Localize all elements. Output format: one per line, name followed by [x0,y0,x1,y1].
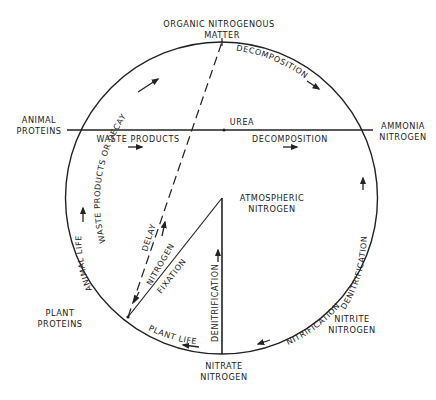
label-waste-or-decay: WASTE PRODUCTS OR DECAY [93,112,128,244]
label-atmospheric-line2: NITROGEN [248,204,295,214]
nitrogen-fixation-line [128,198,222,317]
label-waste-products: WASTE PRODUCTS [96,135,179,144]
label-plant-line1: PLANT [46,308,75,318]
arrow-decomposition-arc [307,81,319,89]
urea-dot [223,129,226,132]
plant-proteins-dot [126,315,129,318]
label-plant-life: PLANT LIFE [147,324,197,347]
label-denitrification-vertical: DENITRIFICATION [211,264,220,342]
label-animal-line2: PROTEINS [17,126,62,136]
label-nitrite-line1: NITRITE [334,314,369,324]
label-decomposition-line: DECOMPOSITION [252,135,328,144]
label-denitrification-arc: DENITRIFICATION [339,235,369,311]
label-nitrate-line2: NITROGEN [200,372,247,382]
label-animal-life: ANIMAL LIFE [74,235,94,293]
label-atmospheric-line1: ATMOSPHERIC [240,193,304,203]
arrow-delay [162,222,165,236]
label-ammonia-line1: AMMONIA [381,121,425,131]
arrow-waste-decay [138,79,158,92]
label-organic-line2: MATTER [204,30,240,40]
label-organic-line1: ORGANIC NITROGENOUS [163,19,274,29]
label-nitrate-line1: NITRATE [205,361,243,371]
label-ammonia-line2: NITROGEN [379,132,426,142]
nitrogen-cycle-diagram: ORGANIC NITROGENOUS MATTER ANIMAL PROTEI… [0,0,436,400]
label-urea: UREA [230,118,254,127]
label-nitrite-line2: NITROGEN [328,325,375,335]
label-animal-line1: ANIMAL [22,115,56,125]
label-delay: DELAY [140,223,157,253]
arrow-nitrification [258,340,270,344]
label-plant-line2: PROTEINS [38,319,83,329]
